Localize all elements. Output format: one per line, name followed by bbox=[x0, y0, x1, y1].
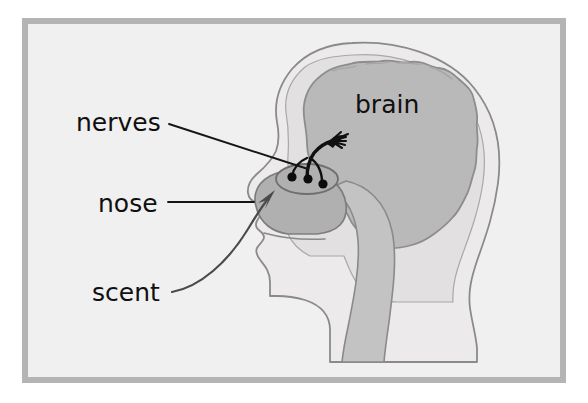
label-nerves: nerves bbox=[76, 108, 161, 137]
label-nose: nose bbox=[98, 189, 158, 218]
smell-diagram-svg: nerves nose scent brain bbox=[0, 0, 588, 403]
nerve-dot-right bbox=[318, 179, 327, 188]
nerve-dot-left bbox=[287, 172, 296, 181]
label-brain: brain bbox=[355, 90, 419, 119]
diagram-page: nerves nose scent brain bbox=[0, 0, 588, 403]
scent-arrow-curve bbox=[172, 199, 268, 292]
nerve-dot-middle bbox=[303, 174, 312, 183]
label-scent: scent bbox=[92, 278, 160, 307]
